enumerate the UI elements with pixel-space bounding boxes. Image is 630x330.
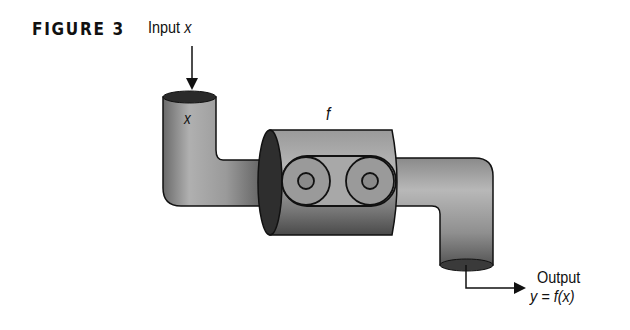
function-machine-diagram: [0, 0, 630, 330]
output-label: Output: [537, 268, 580, 288]
output-pipe: [395, 158, 493, 271]
pipe-input-var: x: [184, 110, 191, 128]
machine-label: f: [326, 104, 330, 125]
input-pipe: [163, 91, 268, 206]
output-formula: y = f(x): [530, 287, 575, 307]
roller-left: [282, 157, 330, 205]
function-machine: [258, 130, 397, 235]
input-arrow: [186, 46, 198, 90]
roller-right: [346, 157, 394, 205]
